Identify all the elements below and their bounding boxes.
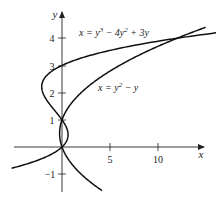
parabola-label-lhs: x = y — [97, 82, 119, 93]
chart-svg: 5 10 4 3 2 1 −1 x y x = y3 − 4y2 + 3y x … — [0, 0, 216, 201]
cubic-label-lhs: x = y — [78, 27, 100, 38]
cubic-label-mid: − 4y — [103, 27, 125, 38]
x-tick-label-10: 10 — [153, 154, 163, 165]
y-tick-label-2: 2 — [50, 88, 55, 99]
y-axis-label: y — [52, 8, 58, 20]
parabola-curve — [60, 27, 206, 190]
y-tick-label-neg1: −1 — [45, 169, 56, 180]
y-tick-label-4: 4 — [50, 33, 55, 44]
x-axis-label: x — [198, 148, 204, 160]
y-tick-label-1: 1 — [50, 115, 55, 126]
cubic-label: x = y3 − 4y2 + 3y — [78, 26, 150, 38]
x-tick-label-5: 5 — [108, 154, 113, 165]
parabola-label-end: − y — [122, 82, 139, 93]
cubic-label-end: + 3y — [128, 27, 150, 38]
cubic-curve — [12, 31, 216, 168]
chart-container: 5 10 4 3 2 1 −1 x y x = y3 − 4y2 + 3y x … — [0, 0, 216, 201]
parabola-label: x = y2 − y — [97, 81, 139, 93]
